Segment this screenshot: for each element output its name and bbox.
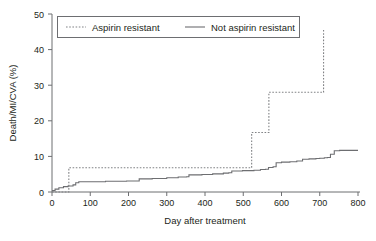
x-tick-label-200: 200 (121, 198, 136, 208)
y-tick-label-50: 50 (34, 10, 44, 20)
x-tick-label-800: 800 (350, 198, 365, 208)
chart-figure: 0 10 20 30 40 50 Death/MI/CVA (%) (0, 0, 376, 241)
y-tick-label-10: 10 (34, 152, 44, 162)
legend: Aspirin resistant Not aspirin resistant (58, 17, 300, 38)
y-axis-title: Death/MI/CVA (%) (7, 65, 18, 142)
x-axis-tick-labels: 0 100 200 300 400 500 600 700 800 (49, 198, 365, 208)
x-tick-label-300: 300 (159, 198, 174, 208)
x-tick-label-500: 500 (236, 198, 251, 208)
x-tick-label-100: 100 (83, 198, 98, 208)
legend-label-aspirin-resistant: Aspirin resistant (92, 22, 160, 33)
legend-label-not-aspirin-resistant: Not aspirin resistant (211, 22, 295, 33)
x-axis-title: Day after treatment (164, 215, 246, 226)
y-tick-label-20: 20 (34, 116, 44, 126)
y-tick-label-40: 40 (34, 45, 44, 55)
x-tick-label-0: 0 (49, 198, 54, 208)
survival-curve-chart: 0 10 20 30 40 50 Death/MI/CVA (%) (0, 0, 376, 241)
x-tick-label-600: 600 (274, 198, 289, 208)
y-tick-label-0: 0 (39, 188, 44, 198)
y-tick-label-30: 30 (34, 81, 44, 91)
x-tick-label-400: 400 (197, 198, 212, 208)
x-tick-label-700: 700 (312, 198, 327, 208)
